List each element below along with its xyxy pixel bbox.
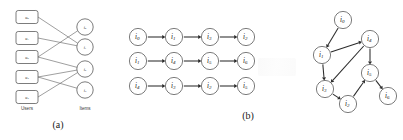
figure-container: u0u1u2u3u4 i0i1i2i3 Users Items i0i1i3i2…: [0, 0, 403, 140]
user-node-label-u2: u2: [25, 55, 29, 61]
figure-caption-b: (b): [228, 110, 268, 121]
bipartite-edge: [38, 70, 77, 77]
sequence-arrowhead: [198, 35, 201, 39]
bipartite-graph-svg: u0u1u2u3u4 i0i1i2i3 Users Items: [0, 0, 135, 118]
sequence-arrowhead: [162, 84, 165, 88]
figure-caption-a: (a): [38, 119, 78, 130]
sequence-arrowhead: [234, 35, 237, 39]
sequence-arrowhead: [162, 59, 165, 63]
user-nodes-group: u0u1u2u3u4: [16, 11, 38, 104]
bipartite-edge: [38, 31, 78, 57]
graph-arrowhead-i1-to-i3: [322, 77, 326, 80]
user-node-label-u0: u0: [25, 15, 29, 21]
graph-edge-i0-to-i1: [328, 28, 338, 45]
item-sequences-group: i0i1i3i2i1i4i5i6i4i3i2i5: [129, 28, 254, 94]
graph-edge-i2-to-i5: [353, 82, 363, 96]
sequence-arrowhead: [234, 59, 237, 63]
graph-edge-i5-to-i6: [376, 80, 381, 86]
user-node-label-u3: u3: [25, 75, 29, 81]
sequence-arrowhead: [162, 35, 165, 39]
user-node-label-u1: u1: [25, 36, 29, 42]
session-graph-svg: i0i1i3i2i1i4i5i6i4i3i2i5 i0i1i4i5i3i2i6: [128, 0, 403, 118]
graph-edge-i1-to-i3: [323, 64, 324, 77]
sequence-arrowhead: [234, 84, 237, 88]
bipartite-edge: [38, 77, 77, 88]
items-column-label: Items: [79, 106, 91, 111]
user-node-label-u4: u4: [25, 95, 29, 101]
item-nodes-group: i0i1i2i3: [77, 19, 93, 98]
graph-edge-i3-to-i2: [333, 94, 338, 98]
sequence-arrowhead: [198, 84, 201, 88]
graph-edge-i4-to-i3: [333, 46, 364, 80]
bipartite-edges-group: [38, 17, 78, 97]
graph-arrowhead-i4-to-i5: [368, 61, 372, 64]
bipartite-edge: [38, 57, 77, 67]
sequence-arrowhead: [198, 59, 201, 63]
graph-edge-i1-to-i4: [331, 43, 359, 52]
users-column-label: Users: [21, 106, 34, 111]
directed-graph-nodes-group: i0i1i4i5i3i2i6: [313, 11, 396, 112]
